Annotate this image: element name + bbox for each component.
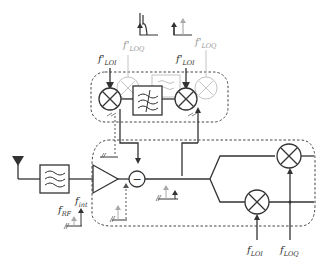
svg-text:f'LOI: f'LOI — [175, 53, 195, 67]
lna-amplifier — [93, 165, 118, 193]
spectrum-sketch-left — [137, 13, 158, 35]
receiver-diagram: f'LOQ f'LOI f'LOI f'LOQ — [0, 0, 325, 266]
svg-text:fLOQ: fLOQ — [279, 244, 299, 258]
label-flo-i-top-right: f'LOI — [175, 53, 195, 67]
spectrum-sketch-lna — [110, 183, 129, 222]
label-flo-q-bottom: fLOQ — [279, 244, 299, 258]
svg-text:fLOI: fLOI — [246, 244, 263, 258]
label-flo-q-top-left: f'LOQ — [122, 39, 145, 53]
mixer-i — [245, 190, 269, 214]
bandpass-filter — [40, 165, 69, 193]
label-flo-i-bottom: fLOI — [246, 244, 263, 258]
label-flo-i-top-left: f'LOI — [97, 53, 117, 67]
spectrum-sketch-right — [171, 18, 192, 35]
lowpass-filter — [133, 86, 162, 115]
antenna-icon — [12, 156, 40, 179]
faint-q-path — [117, 50, 217, 99]
mixer-q — [277, 144, 301, 168]
svg-text:fint: fint — [74, 195, 88, 209]
cancellation-mixer-right — [175, 68, 197, 110]
cancellation-mixer-left — [99, 68, 121, 110]
feedback-lines — [120, 107, 201, 176]
label-flo-q-top-right: f'LOQ — [194, 36, 217, 50]
svg-text:f'LOQ: f'LOQ — [122, 39, 145, 53]
svg-text:f'LOQ: f'LOQ — [194, 36, 217, 50]
spectrum-sketch-input: fRF fint — [57, 195, 88, 229]
svg-text:−: − — [132, 173, 141, 186]
svg-text:f'LOI: f'LOI — [97, 53, 117, 67]
spectrum-sketch-cancel — [156, 185, 178, 201]
subtractor: − — [129, 171, 145, 187]
svg-text:fRF: fRF — [57, 204, 72, 218]
